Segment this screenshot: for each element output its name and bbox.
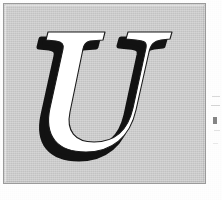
scanned-page — [0, 0, 222, 200]
edge-bleed-mark — [213, 143, 218, 144]
letter-u-artwork — [4, 4, 206, 184]
drop-cap-letter-u — [4, 4, 206, 184]
drop-cap-panel — [3, 3, 206, 184]
edge-bleed-mark — [212, 96, 220, 97]
edge-bleed-mark — [214, 130, 220, 131]
edge-bleed-mark — [213, 117, 217, 124]
edge-bleed-mark — [211, 105, 220, 106]
letter-u-face — [46, 32, 172, 152]
